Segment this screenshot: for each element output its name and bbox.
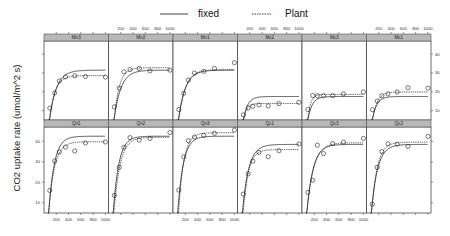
strip-label: Qc2: [395, 121, 404, 126]
strip-label: Mn3: [72, 35, 81, 40]
panel-frame: [302, 41, 367, 120]
y-tick-label-right: 40: [435, 52, 440, 57]
x-tick-label: 800: [412, 26, 420, 31]
panel-Mn3: Mn3: [44, 32, 109, 120]
x-tick-label: 800: [348, 217, 356, 222]
x-tick-label: 1000: [165, 26, 175, 31]
x-tick-label: 400: [130, 26, 138, 31]
strip-label: Mc2: [265, 35, 274, 40]
x-tick-label: 1000: [423, 26, 433, 31]
legend: fixed Plant: [160, 8, 308, 19]
y-axis-label: CO2 uptake rate (umol/m^2 s): [11, 65, 22, 192]
panel-Qc1: Qc1: [238, 120, 303, 215]
x-tick-label: 200: [53, 217, 61, 222]
x-tick-label: 1000: [230, 217, 240, 222]
panel-Qn2: Qn2: [109, 120, 174, 215]
x-tick-label: 800: [219, 217, 227, 222]
panel-Qc3: Qc3: [302, 120, 367, 215]
x-tick-label: 600: [77, 217, 85, 222]
x-tick-label: 600: [271, 26, 279, 31]
x-tick-label: 800: [90, 217, 98, 222]
panel-Mc1: Mc1: [367, 32, 432, 120]
panel-frame: [367, 127, 432, 213]
x-tick-label: 400: [323, 217, 331, 222]
panel-frame: [238, 127, 303, 213]
strip-label: Qn1: [72, 121, 81, 126]
panel-frame: [109, 41, 174, 120]
panel-frame: [44, 41, 109, 120]
y-tick-label-right: 20: [435, 89, 440, 94]
panel-frame: [109, 127, 174, 213]
x-tick-label: 600: [400, 26, 408, 31]
panel-Qn1: Qn1: [44, 120, 109, 215]
x-tick-label: 200: [375, 26, 383, 31]
x-tick-label: 400: [65, 217, 73, 222]
legend-plant-label: Plant: [285, 8, 308, 19]
x-tick-label: 200: [311, 217, 319, 222]
x-tick-label: 1000: [101, 217, 111, 222]
strip-label: Mc3: [330, 35, 339, 40]
panel-frame: [173, 41, 238, 120]
panel-frame: [173, 127, 238, 213]
panel-Qc2: Qc2: [367, 120, 432, 215]
panels-grid: Mn3Mn2Mn1Mc2Mc3Mc1Qn1Qn2Qn3Qc1Qc3Qc2: [44, 32, 431, 215]
panel-Mn2: Mn2: [109, 32, 174, 120]
panel-Qn3: Qn3: [173, 120, 238, 215]
strip-label: Mn1: [201, 35, 210, 40]
x-tick-label: 600: [335, 217, 343, 222]
y-tick-label-left: 40: [35, 139, 40, 144]
x-tick-label: 400: [259, 26, 267, 31]
panel-frame: [367, 41, 432, 120]
y-tick-label-left: 20: [35, 180, 40, 185]
y-tick-label-right: 10: [435, 108, 440, 113]
strip-label: Qn2: [136, 121, 145, 126]
panel-frame: [302, 127, 367, 213]
x-tick-label: 800: [154, 26, 162, 31]
panel-Mc2: Mc2: [238, 32, 303, 120]
panel-Mn1: Mn1: [173, 32, 238, 120]
x-tick-label: 200: [182, 217, 190, 222]
panel-frame: [238, 41, 303, 120]
x-tick-label: 600: [206, 217, 214, 222]
trellis-chart: fixed Plant CO2 uptake rate (umol/m^2 s)…: [0, 0, 450, 236]
x-tick-label: 1000: [359, 217, 369, 222]
legend-fixed-label: fixed: [198, 8, 219, 19]
strip-label: Qn3: [201, 121, 210, 126]
y-tick-label-left: 30: [35, 159, 40, 164]
x-tick-label: 800: [283, 26, 291, 31]
strip-label: Mn2: [136, 35, 145, 40]
strip-label: Qc1: [266, 121, 275, 126]
x-tick-label: 400: [388, 26, 396, 31]
strip-label: Qc3: [330, 121, 339, 126]
x-tick-label: 400: [194, 217, 202, 222]
x-tick-label: 200: [246, 26, 254, 31]
x-tick-label: 600: [142, 26, 150, 31]
panel-Mc3: Mc3: [302, 32, 367, 120]
panel-frame: [44, 127, 109, 213]
y-tick-label-left: 10: [35, 200, 40, 205]
x-tick-label: 200: [117, 26, 125, 31]
y-tick-label-right: 30: [435, 70, 440, 75]
strip-label: Mc1: [394, 35, 403, 40]
x-tick-label: 1000: [294, 26, 304, 31]
